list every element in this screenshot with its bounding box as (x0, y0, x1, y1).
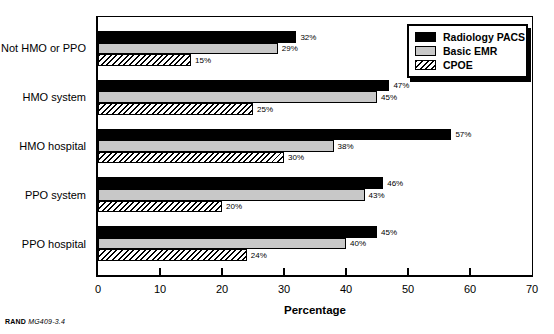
bar-cpoe (98, 54, 191, 66)
legend-label: Basic EMR (443, 45, 497, 57)
bar-value-label: 24% (251, 251, 267, 260)
x-tick-label: 50 (393, 283, 423, 296)
bar-cpoe (98, 152, 284, 164)
category-label: PPO hospital (0, 236, 91, 252)
legend-item-radiology-pacs: Radiology PACS (415, 30, 520, 44)
legend-item-basic-emr: Basic EMR (415, 44, 520, 58)
category-label: Not HMO or PPO (0, 40, 91, 56)
bar-cpoe (98, 201, 222, 213)
bar-value-label: 30% (288, 153, 304, 162)
bar-value-label: 20% (226, 202, 242, 211)
legend-label: Radiology PACS (443, 31, 525, 43)
bar-value-label: 45% (381, 93, 397, 102)
bar-value-label: 32% (300, 33, 316, 42)
figure-source-label: RAND MG409-3.4 (5, 317, 65, 326)
x-tick-label: 0 (83, 283, 113, 296)
x-axis-title: Percentage (98, 303, 532, 317)
x-axis-labels: 010203040506070 (98, 283, 532, 297)
legend-label: CPOE (443, 59, 473, 71)
bar-value-label: 47% (393, 81, 409, 90)
bar-basic-emr (98, 189, 365, 201)
footer-brand: RAND (5, 318, 26, 325)
legend-swatch-hatched-icon (415, 60, 436, 70)
bar-cpoe (98, 103, 253, 115)
category-label: HMO hospital (0, 138, 91, 154)
category-label: HMO system (0, 89, 91, 105)
category-label: PPO system (0, 187, 91, 203)
bar-value-label: 43% (369, 191, 385, 200)
bar-value-label: 46% (387, 179, 403, 188)
bar-radiology-pacs (98, 177, 383, 189)
x-tick (469, 268, 471, 275)
bar-value-label: 15% (195, 56, 211, 65)
bar-radiology-pacs (98, 226, 377, 238)
x-tick-label: 40 (331, 283, 361, 296)
category-labels: Not HMO or PPOHMO systemHMO hospitalPPO … (0, 17, 91, 275)
x-tick-label: 60 (455, 283, 485, 296)
x-tick (221, 268, 223, 275)
x-tick-label: 20 (207, 283, 237, 296)
bar-value-label: 38% (338, 142, 354, 151)
bar-cpoe (98, 249, 247, 261)
legend-swatch-gray-icon (415, 46, 436, 56)
bar-value-label: 29% (282, 44, 298, 53)
figure: Not HMO or PPOHMO systemHMO hospitalPPO … (0, 0, 554, 334)
x-tick-label: 30 (269, 283, 299, 296)
bar-basic-emr (98, 238, 346, 250)
x-tick (407, 268, 409, 275)
bar-value-label: 40% (350, 239, 366, 248)
x-tick (345, 268, 347, 275)
bar-basic-emr (98, 91, 377, 103)
bar-basic-emr (98, 43, 278, 55)
x-tick-label: 70 (517, 283, 547, 296)
legend-swatch-black-icon (415, 32, 436, 42)
bar-value-label: 45% (381, 228, 397, 237)
legend: Radiology PACS Basic EMR CPOE (407, 24, 528, 78)
bar-value-label: 57% (455, 130, 471, 139)
bar-radiology-pacs (98, 80, 389, 92)
x-tick (159, 268, 161, 275)
bar-basic-emr (98, 140, 334, 152)
footer-doc-number: MG409-3.4 (28, 318, 65, 325)
bar-radiology-pacs (98, 129, 451, 141)
bar-value-label: 25% (257, 105, 273, 114)
x-tick-label: 10 (145, 283, 175, 296)
bar-radiology-pacs (98, 31, 296, 43)
x-tick (283, 268, 285, 275)
legend-item-cpoe: CPOE (415, 58, 520, 72)
